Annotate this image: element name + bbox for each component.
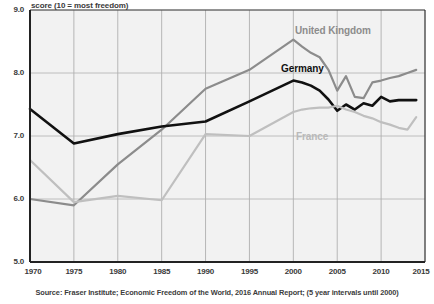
y-tick-label: 7.0: [0, 131, 24, 140]
series-label-france: France: [296, 131, 328, 142]
y-tick-label: 9.0: [0, 5, 24, 14]
x-tick-label: 2015: [406, 267, 434, 276]
x-tick-label: 1975: [59, 267, 89, 276]
y-tick-label: 8.0: [0, 68, 24, 77]
x-tick-label: 1970: [18, 267, 48, 276]
y-tick-label: 6.0: [0, 194, 24, 203]
x-tick-label: 1980: [103, 267, 133, 276]
y-axis-caption: score (10 = most freedom): [31, 1, 128, 10]
chart-canvas: [0, 0, 434, 304]
series-label-united-kingdom: United Kingdom: [295, 25, 371, 36]
x-tick-label: 2005: [322, 267, 352, 276]
x-tick-label: 2010: [366, 267, 396, 276]
x-tick-label: 1985: [147, 267, 177, 276]
chart-container: score (10 = most freedom) 9.08.07.06.05.…: [0, 0, 434, 304]
y-tick-label: 5.0: [0, 257, 24, 266]
source-note: Source: Fraser Institute; Economic Freed…: [0, 288, 434, 297]
x-tick-label: 2000: [278, 267, 308, 276]
x-tick-label: 1995: [234, 267, 264, 276]
series-label-germany: Germany: [281, 63, 324, 74]
x-tick-label: 1990: [191, 267, 221, 276]
